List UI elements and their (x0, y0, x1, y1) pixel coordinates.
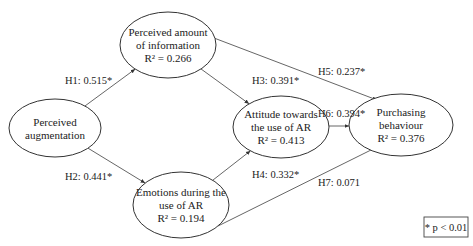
edge-label-att-pur: H6: 0.394* (318, 108, 365, 119)
edge-emo-att (213, 151, 251, 180)
node-r2: R² = 0.194 (157, 212, 205, 224)
node-label-line: of information (136, 39, 200, 51)
node-r2: R² = 0.413 (257, 134, 305, 146)
node-info: Perceived amountof informationR² = 0.266 (120, 12, 216, 78)
node-r2: R² = 0.266 (144, 52, 192, 64)
legend-box: * p < 0.01 (424, 217, 468, 237)
legend-text: * p < 0.01 (425, 222, 468, 233)
edge-label-info-pur: H5: 0.237* (318, 66, 365, 77)
node-label-line: Perceived amount (128, 26, 207, 38)
node-label-line: behaviour (379, 119, 423, 131)
edge-label-emo-pur: H7: 0.071 (318, 177, 360, 188)
edge-label-aug-info: H1: 0.515* (65, 75, 112, 86)
node-emo: Emotions during theuse of ARR² = 0.194 (133, 172, 229, 238)
node-aug: Perceivedaugmentation (9, 99, 101, 157)
node-label-line: use of AR (159, 199, 204, 211)
edge-label-info-att: H3: 0.391* (252, 75, 299, 86)
path-diagram: PerceivedaugmentationPerceived amountof … (0, 0, 473, 246)
node-label-line: the use of AR (251, 121, 312, 133)
node-label-line: Purchasing (377, 106, 426, 118)
node-label-line: augmentation (25, 129, 85, 141)
node-label-line: Emotions during the (136, 186, 226, 198)
node-r2: R² = 0.376 (377, 132, 425, 144)
node-label-line: Perceived (33, 116, 77, 128)
edge-label-aug-emo: H2: 0.441* (65, 171, 112, 182)
node-label-line: Attitude towards (244, 108, 318, 120)
node-att: Attitude towardsthe use of ARR² = 0.413 (233, 96, 329, 158)
node-pur: PurchasingbehaviourR² = 0.376 (349, 94, 453, 156)
edge-info-att (201, 69, 249, 104)
edge-label-emo-att: H4: 0.332* (252, 169, 299, 180)
